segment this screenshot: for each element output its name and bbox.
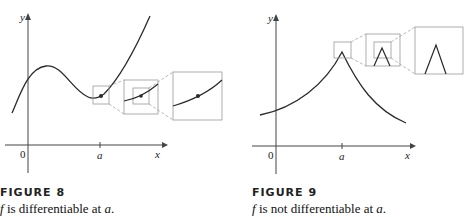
y-axis-label: y bbox=[19, 11, 25, 23]
x-axis-label: x bbox=[154, 148, 160, 160]
figure-9-plot: y x 0 a bbox=[252, 12, 463, 174]
origin-label: 0 bbox=[20, 148, 26, 160]
figure-8-caption: f is differentiable at a. bbox=[0, 201, 114, 217]
zoom-box-3 bbox=[415, 27, 463, 74]
figures-canvas: y x 0 a y x 0 a bbox=[0, 0, 472, 217]
figure-8-label: FIGURE 8 bbox=[0, 186, 65, 199]
zoom-box-1 bbox=[334, 42, 351, 58]
figure-9-caption: f is not differentiable at a. bbox=[252, 201, 386, 217]
x-axis-arrow-icon bbox=[410, 143, 416, 149]
x-axis-arrow-icon bbox=[162, 142, 168, 148]
y-axis-label: y bbox=[267, 12, 273, 24]
x-axis-label: x bbox=[404, 149, 410, 161]
tick-label-a: a bbox=[339, 150, 345, 162]
tick-label-a: a bbox=[97, 149, 103, 161]
figure-9-label: FIGURE 9 bbox=[252, 186, 317, 199]
y-axis-arrow-icon bbox=[273, 14, 279, 21]
point-a bbox=[99, 94, 103, 98]
figure-8-plot: y x 0 a bbox=[5, 11, 222, 173]
y-axis-arrow-icon bbox=[25, 13, 31, 20]
origin-label: 0 bbox=[268, 149, 274, 161]
